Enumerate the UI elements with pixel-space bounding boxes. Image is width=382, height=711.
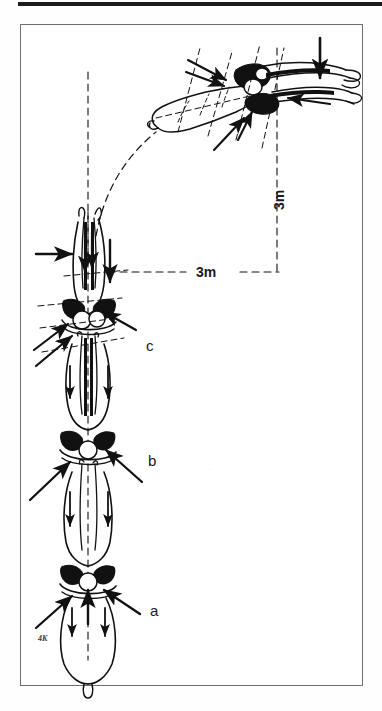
distance-label-horizontal: 3m (196, 264, 216, 280)
trajectory-arc (96, 132, 156, 236)
figure-page: 3m 3m c b a 4K (0, 0, 382, 711)
figure-artwork (0, 0, 382, 711)
distance-label-vertical: 3m (271, 190, 287, 210)
artwork-ink (30, 38, 362, 698)
artist-signature: 4K (38, 634, 47, 643)
locust-standing-column (30, 207, 142, 698)
stage-label-c: c (146, 337, 154, 354)
stage-label-b: b (148, 452, 156, 469)
locust-airborne (148, 38, 362, 150)
stage-label-a: a (150, 602, 158, 619)
